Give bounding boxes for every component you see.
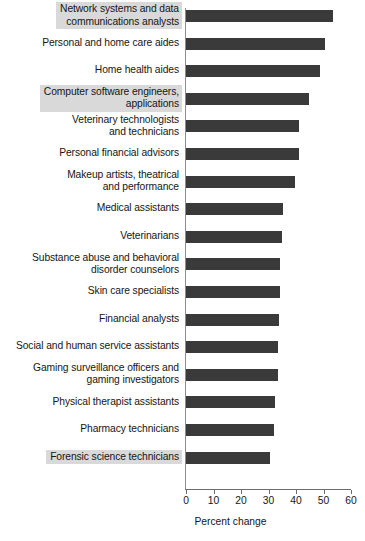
bar — [186, 258, 280, 270]
x-axis-title: Percent change — [0, 516, 365, 527]
bar — [186, 148, 299, 160]
bar-row: Gaming surveillance officers and gaming … — [0, 362, 365, 388]
bar-row: Medical assistants — [0, 196, 365, 222]
x-tick-label: 40 — [283, 495, 309, 507]
category-label: Personal and home care aides — [38, 36, 182, 50]
bar — [186, 424, 274, 436]
x-tick-mark — [241, 490, 242, 494]
bar — [186, 231, 282, 243]
bar-row: Personal financial advisors — [0, 141, 365, 167]
bar-chart: Network systems and data communications … — [0, 0, 365, 541]
x-tick-label: 20 — [228, 495, 254, 507]
bar — [186, 120, 299, 132]
bar — [186, 65, 320, 77]
bar-row: Home health aides — [0, 58, 365, 84]
bar — [186, 10, 333, 22]
category-label: Medical assistants — [93, 201, 182, 215]
bar-row: Veterinary technologists and technicians — [0, 113, 365, 139]
x-tick-label: 60 — [338, 495, 364, 507]
bar-row: Physical therapist assistants — [0, 389, 365, 415]
bar — [186, 396, 275, 408]
bar-row: Pharmacy technicians — [0, 417, 365, 443]
category-label: Forensic science technicians — [46, 450, 182, 464]
bar-row: Skin care specialists — [0, 279, 365, 305]
category-label: Skin care specialists — [84, 284, 182, 298]
bar-row: Social and human service assistants — [0, 334, 365, 360]
y-axis-line — [185, 8, 186, 489]
x-tick-label: 0 — [173, 495, 199, 507]
bar-row: Veterinarians — [0, 224, 365, 250]
bar — [186, 341, 278, 353]
bar — [186, 93, 309, 105]
category-label: Substance abuse and behavioral disorder … — [28, 251, 182, 278]
x-tick-mark — [269, 490, 270, 494]
bar — [186, 38, 325, 50]
bar — [186, 286, 280, 298]
category-label: Network systems and data communications … — [56, 2, 182, 29]
bar-row: Network systems and data communications … — [0, 3, 365, 29]
x-tick-mark — [324, 490, 325, 494]
category-label: Gaming surveillance officers and gaming … — [29, 361, 182, 388]
bar — [186, 203, 283, 215]
bar-row: Personal and home care aides — [0, 31, 365, 57]
category-label: Veterinarians — [116, 229, 182, 243]
x-tick-label: 10 — [201, 495, 227, 507]
category-label: Pharmacy technicians — [76, 422, 182, 436]
category-label: Computer software engineers, application… — [40, 85, 182, 112]
category-label: Makeup artists, theatrical and performan… — [63, 168, 182, 195]
x-tick-label: 30 — [256, 495, 282, 507]
bar-row: Forensic science technicians — [0, 445, 365, 471]
x-tick-mark — [296, 490, 297, 494]
category-label: Social and human service assistants — [12, 339, 182, 353]
bar — [186, 452, 270, 464]
bar-row: Financial analysts — [0, 307, 365, 333]
bar — [186, 176, 295, 188]
category-label: Personal financial advisors — [55, 146, 182, 160]
x-tick-mark — [186, 490, 187, 494]
category-label: Physical therapist assistants — [49, 395, 182, 409]
category-label: Home health aides — [91, 63, 182, 77]
category-label: Financial analysts — [95, 312, 182, 326]
chart-plot-area: Network systems and data communications … — [0, 0, 365, 489]
bar-row: Makeup artists, theatrical and performan… — [0, 169, 365, 195]
bar-row: Substance abuse and behavioral disorder … — [0, 251, 365, 277]
bar — [186, 369, 278, 381]
x-tick-mark — [351, 490, 352, 494]
x-tick-label: 50 — [311, 495, 337, 507]
category-label: Veterinary technologists and technicians — [68, 113, 182, 140]
x-tick-mark — [214, 490, 215, 494]
bar-row: Computer software engineers, application… — [0, 86, 365, 112]
bar — [186, 314, 279, 326]
